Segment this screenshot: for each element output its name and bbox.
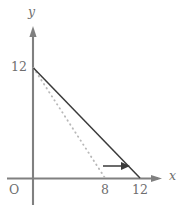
graph-canvas: [0, 0, 187, 212]
dotted-line-series: [34, 68, 106, 178]
y-tick-label-12: 12: [11, 61, 27, 74]
origin-label: O: [9, 184, 19, 197]
y-axis-arrowhead: [29, 26, 36, 37]
coordinate-plane-figure: y x O 12 8 12: [0, 0, 187, 212]
x-axis-label: x: [169, 170, 176, 183]
x-tick-label-12: 12: [132, 184, 148, 197]
x-axis-arrowhead: [151, 175, 162, 182]
x-tick-label-8: 8: [101, 184, 109, 197]
solid-line-series: [34, 68, 141, 178]
y-axis-label: y: [28, 6, 35, 19]
